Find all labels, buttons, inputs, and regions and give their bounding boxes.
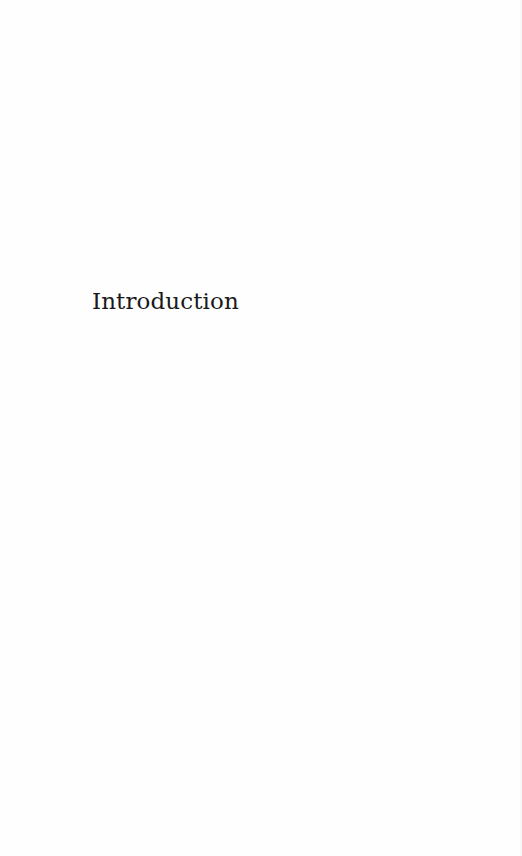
chapter-heading: Introduction: [92, 290, 239, 313]
book-page: Introduction: [0, 0, 522, 856]
